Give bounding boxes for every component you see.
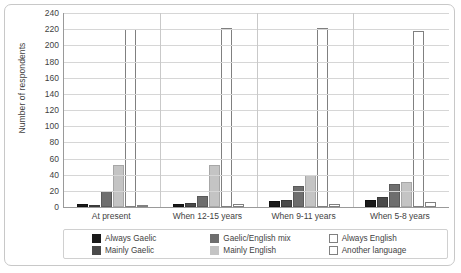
group-separator xyxy=(160,13,161,207)
chart-legend: Always GaelicGaelic/English mixAlways En… xyxy=(63,229,448,259)
legend-swatch-icon xyxy=(210,246,219,255)
y-axis-tick-label: 100 xyxy=(45,122,59,131)
bar-chart: Number of respondents 240220200180160140… xyxy=(5,5,456,267)
y-axis-tick-label: 120 xyxy=(45,106,59,115)
y-axis-tick-label: 40 xyxy=(50,170,59,179)
y-axis-tick-label: 140 xyxy=(45,90,59,99)
y-axis-tick-label: 180 xyxy=(45,57,59,66)
legend-swatch-icon xyxy=(92,246,101,255)
legend-label: Always Gaelic xyxy=(105,234,156,243)
legend-swatch-icon xyxy=(210,234,219,243)
legend-item[interactable]: Always Gaelic xyxy=(92,234,210,243)
legend-swatch-icon xyxy=(329,234,338,243)
x-axis-tick-label: When 12-15 years xyxy=(159,211,255,221)
bar[interactable] xyxy=(113,165,124,207)
bar[interactable] xyxy=(101,191,112,207)
legend-swatch-icon xyxy=(92,234,101,243)
legend-item[interactable]: Another language xyxy=(329,246,447,255)
plot-area xyxy=(63,13,449,208)
bar[interactable] xyxy=(125,29,136,207)
bar[interactable] xyxy=(281,200,292,207)
group-separator xyxy=(257,13,258,207)
bar[interactable] xyxy=(221,28,232,207)
bar[interactable] xyxy=(389,184,400,207)
gridline xyxy=(64,207,449,208)
y-axis-tick-label: 220 xyxy=(45,25,59,34)
legend-item[interactable]: Mainly Gaelic xyxy=(92,246,210,255)
bar[interactable] xyxy=(413,31,424,207)
y-axis-tick-label: 240 xyxy=(45,9,59,18)
legend-label: Gaelic/English mix xyxy=(223,234,290,243)
bar[interactable] xyxy=(365,200,376,207)
y-axis-tick-label: 200 xyxy=(45,41,59,50)
y-axis-tick-label: 60 xyxy=(50,154,59,163)
y-axis-tick-labels: 240220200180160140120100806040200 xyxy=(31,9,59,209)
y-axis-tick-label: 160 xyxy=(45,73,59,82)
legend-item[interactable]: Gaelic/English mix xyxy=(210,234,328,243)
legend-swatch-icon xyxy=(329,246,338,255)
y-axis-tick-label: 0 xyxy=(54,203,59,212)
legend-label: Another language xyxy=(342,246,407,255)
legend-label: Always English xyxy=(342,234,397,243)
x-axis-tick-label: When 5-8 years xyxy=(352,211,448,221)
legend-label: Mainly Gaelic xyxy=(105,246,154,255)
y-axis-title: Number of respondents xyxy=(17,13,27,163)
bar[interactable] xyxy=(197,196,208,207)
y-axis-tick-label: 20 xyxy=(50,187,59,196)
bar[interactable] xyxy=(293,186,304,207)
legend-label: Mainly English xyxy=(223,246,276,255)
group-separator xyxy=(353,13,354,207)
y-axis-tick-label: 80 xyxy=(50,138,59,147)
x-axis-tick-labels: At presentWhen 12-15 yearsWhen 9-11 year… xyxy=(63,211,448,221)
bar[interactable] xyxy=(209,165,220,207)
legend-item[interactable]: Mainly English xyxy=(210,246,328,255)
chart-card: Number of respondents 240220200180160140… xyxy=(4,4,455,266)
bar[interactable] xyxy=(401,182,412,207)
bar[interactable] xyxy=(377,197,388,208)
legend-item[interactable]: Always English xyxy=(329,234,447,243)
x-axis-tick-label: At present xyxy=(63,211,159,221)
bar[interactable] xyxy=(317,28,328,207)
x-axis-tick-label: When 9-11 years xyxy=(256,211,352,221)
